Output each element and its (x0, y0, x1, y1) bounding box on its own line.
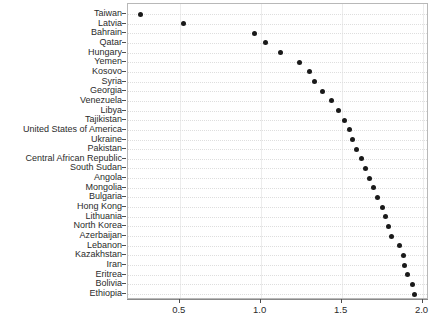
y-axis-tick (122, 148, 126, 149)
y-axis-tick (122, 293, 126, 294)
data-point (359, 156, 364, 161)
plot-area (127, 3, 428, 299)
data-point (320, 89, 325, 94)
data-point (278, 50, 283, 55)
y-axis-category-label: South Sudan (70, 163, 122, 172)
y-axis-category-label: Bulgaria (89, 192, 122, 201)
y-axis-tick (122, 23, 126, 24)
y-axis-category-label: Bolivia (95, 279, 122, 288)
x-axis-tick (260, 299, 261, 303)
vertical-gridline (423, 4, 424, 298)
data-point (363, 166, 368, 171)
y-axis-category-label: Azerbaijan (79, 231, 122, 240)
y-axis-category-label: Mongolia (85, 182, 122, 191)
x-axis-tick (341, 299, 342, 303)
horizontal-gridline (128, 188, 427, 189)
y-axis-category-label: Latvia (98, 18, 122, 27)
y-axis-category-label: Bahrain (91, 28, 122, 37)
horizontal-gridline (128, 14, 427, 15)
x-axis-tick-label: 1.0 (253, 305, 266, 315)
y-axis-category-label: Central African Republic (25, 153, 122, 162)
y-axis-tick (122, 110, 126, 111)
y-axis-category-label: Lebanon (87, 240, 122, 249)
horizontal-gridline (128, 284, 427, 285)
y-axis-tick (122, 254, 126, 255)
scatter-chart-figure: TaiwanLatviaBahrainQatarHungaryYemenKoso… (0, 0, 433, 320)
y-axis-category-label: Qatar (99, 37, 122, 46)
data-point (312, 79, 317, 84)
y-axis-tick (122, 139, 126, 140)
x-axis-tick-label: 0.5 (172, 305, 185, 315)
y-axis-category-label: North Korea (73, 221, 122, 230)
y-axis-tick (122, 177, 126, 178)
horizontal-gridline (128, 226, 427, 227)
data-point (138, 12, 143, 17)
y-axis-category-label: Hong Kong (77, 202, 122, 211)
data-point (386, 224, 391, 229)
horizontal-gridline (128, 24, 427, 25)
y-axis-tick (122, 245, 126, 246)
y-axis-tick (122, 283, 126, 284)
horizontal-gridline (128, 111, 427, 112)
y-axis-category-label: Kosovo (92, 66, 122, 75)
vertical-gridline (342, 4, 343, 298)
data-point (252, 31, 257, 36)
data-point (371, 185, 376, 190)
horizontal-gridline (128, 120, 427, 121)
horizontal-gridline (128, 168, 427, 169)
data-point (367, 176, 372, 181)
data-point (380, 205, 385, 210)
y-axis-tick (122, 13, 126, 14)
y-axis-category-label: United States of America (23, 124, 122, 133)
y-axis-tick (122, 52, 126, 53)
y-axis-tick (122, 61, 126, 62)
horizontal-gridline (128, 265, 427, 266)
data-point (263, 40, 268, 45)
horizontal-gridline (128, 62, 427, 63)
y-axis-tick (122, 90, 126, 91)
y-axis-tick (122, 225, 126, 226)
y-axis-tick (122, 206, 126, 207)
data-point (350, 137, 355, 142)
y-axis-tick (122, 100, 126, 101)
data-point (405, 272, 410, 277)
y-axis-category-label: Georgia (90, 86, 122, 95)
data-point (181, 21, 186, 26)
horizontal-gridline (128, 197, 427, 198)
data-point (297, 60, 302, 65)
horizontal-gridline (128, 82, 427, 83)
y-axis-category-label: Ethiopia (89, 289, 122, 298)
x-axis-line (127, 299, 428, 300)
y-axis-tick (122, 119, 126, 120)
horizontal-gridline (128, 149, 427, 150)
y-axis-tick (122, 71, 126, 72)
data-point (354, 147, 359, 152)
horizontal-gridline (128, 159, 427, 160)
data-point (401, 253, 406, 258)
y-axis-category-label: Lithuania (85, 211, 122, 220)
y-axis-category-label: Ukraine (91, 134, 122, 143)
data-point (383, 214, 388, 219)
y-axis-tick (122, 216, 126, 217)
data-point (412, 292, 417, 297)
x-axis-tick (179, 299, 180, 303)
y-axis-category-label: Venezuela (80, 95, 122, 104)
data-point (347, 127, 352, 132)
vertical-gridline (261, 4, 262, 298)
data-point (342, 118, 347, 123)
data-point (389, 234, 394, 239)
x-axis-tick-label: 2.0 (415, 305, 428, 315)
y-axis-tick (122, 167, 126, 168)
data-point (397, 243, 402, 248)
x-axis-tick-label: 1.5 (334, 305, 347, 315)
horizontal-gridline (128, 236, 427, 237)
y-axis-tick (122, 158, 126, 159)
y-axis-category-label: Syria (101, 76, 122, 85)
y-axis-category-label: Hungary (88, 47, 122, 56)
horizontal-gridline (128, 255, 427, 256)
horizontal-gridline (128, 140, 427, 141)
y-axis-category-label: Tajikistan (85, 115, 122, 124)
horizontal-gridline (128, 275, 427, 276)
y-axis-tick (122, 187, 126, 188)
y-axis-category-label: Kazakhstan (75, 250, 122, 259)
